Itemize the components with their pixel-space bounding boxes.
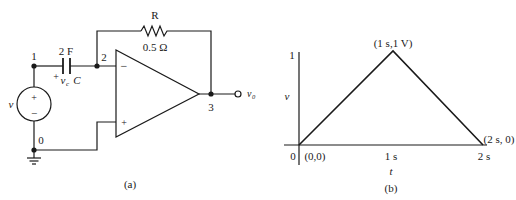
output-terminal-icon (235, 91, 241, 97)
node-3-label: 3 (208, 101, 214, 113)
voltage-source: + − v (9, 87, 51, 121)
figure-a-caption: (a) (124, 178, 137, 191)
x-tick-2s: 2 s (478, 150, 491, 162)
figure-b-caption: (b) (385, 182, 398, 195)
capacitor-plus-sign: + (53, 71, 59, 82)
circuit-diagram: 2 F + v c C R 0.5 Ω − + + − v (9, 9, 256, 191)
x-axis-label: t (389, 165, 393, 177)
figure-canvas: 2 F + v c C R 0.5 Ω − + + − v (0, 0, 516, 200)
node-2-label: 2 (101, 51, 107, 63)
source-minus-sign: − (31, 107, 37, 119)
y-tick-0: 0 (290, 150, 296, 162)
node-1-dot (31, 63, 36, 68)
resistor-zigzag-icon (141, 26, 169, 36)
resistor-value: 0.5 Ω (143, 41, 168, 53)
node-3-dot (208, 91, 213, 96)
op-amp-inverting-sign: − (121, 59, 128, 73)
capacitor-voltage-symbol: v (61, 74, 66, 86)
node-1-label: 1 (31, 50, 37, 62)
source-plus-sign: + (31, 92, 37, 103)
node-2-dot (94, 63, 99, 68)
capacitor-voltage-subscript: c (66, 80, 70, 88)
peak-annotation: (1 s,1 V) (374, 37, 413, 50)
capacitor-value: 2 F (59, 45, 73, 57)
origin-annotation: (0,0) (304, 150, 325, 163)
resistor: R 0.5 Ω (141, 9, 169, 53)
source-name: v (9, 98, 14, 110)
capacitor-name: C (73, 74, 81, 86)
y-tick-1: 1 (289, 49, 295, 61)
y-axis-label: v (285, 90, 290, 102)
end-annotation: (2 s, 0) (484, 133, 515, 146)
x-tick-1s: 1 s (385, 150, 398, 162)
resistor-name: R (151, 9, 159, 21)
ground-icon (27, 158, 41, 164)
node-0-dot (31, 147, 36, 152)
waveform-chart: 1 v 0 (0,0) 1 s 2 s (2 s, 0) (1 s,1 V) t… (284, 37, 515, 195)
output-voltage-subscript: 0 (252, 93, 256, 100)
op-amp-noninverting-sign: + (121, 117, 127, 128)
op-amp: − + (116, 50, 199, 137)
node-0-label: 0 (38, 134, 44, 146)
op-amp-triangle-icon (116, 50, 199, 137)
waveform-line (299, 51, 483, 145)
